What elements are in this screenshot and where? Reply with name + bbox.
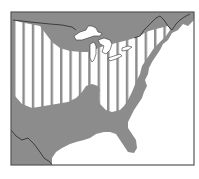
map-svg bbox=[0, 0, 199, 179]
range-map bbox=[0, 0, 199, 179]
